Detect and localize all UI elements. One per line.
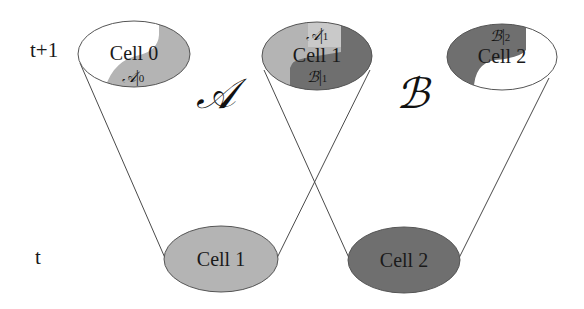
- cell-1-label: Cell 1: [293, 44, 341, 66]
- set-B-label: ℬ: [396, 69, 432, 118]
- cell-mapping-diagram: Cell 0 𝒜|0 𝒜|1 Cell 1 ℬ|1 ℬ|2 Cell 2 Cel…: [0, 0, 584, 309]
- cell-0-label: Cell 0: [110, 42, 158, 64]
- cell-2-t: Cell 2: [348, 227, 460, 293]
- cell-1-t-plus-1: 𝒜|1 Cell 1 ℬ|1: [262, 18, 380, 95]
- cell-2-t-plus-1: ℬ|2 Cell 2: [440, 20, 557, 95]
- cone-line-B-right: [459, 78, 549, 258]
- cell-2-t-label: Cell 2: [380, 249, 428, 271]
- cone-line-B-left: [264, 70, 349, 258]
- cone-line-A-right: [277, 70, 370, 258]
- cell-0-t-plus-1: Cell 0 𝒜|0: [78, 18, 200, 92]
- time-label-t-plus-1: t+1: [30, 38, 58, 62]
- set-A-label: 𝒜: [196, 69, 247, 118]
- cone-line-A-left: [80, 63, 165, 258]
- cell-1-t: Cell 1: [164, 226, 278, 292]
- cell-1-t-label: Cell 1: [197, 248, 245, 270]
- cell-2-label: Cell 2: [478, 45, 526, 67]
- time-label-t: t: [35, 245, 41, 269]
